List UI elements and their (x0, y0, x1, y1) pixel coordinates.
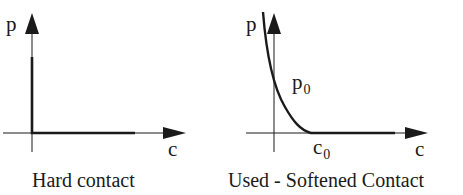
soft-y-axis-label: p (246, 14, 257, 35)
hard-contact-plot (3, 13, 186, 152)
softened-contact-caption: Used - Softened Contact (228, 170, 424, 190)
p0-label: p0 (292, 72, 311, 93)
hard-contact-caption: Hard contact (32, 170, 135, 190)
c0-label-sub: 0 (323, 147, 330, 162)
softened-contact-curve (263, 12, 395, 133)
p0-label-main: p (292, 70, 303, 94)
hard-contact-curve (32, 57, 135, 133)
p0-label-sub: 0 (304, 82, 311, 97)
hard-x-axis-label: c (168, 139, 177, 160)
soft-x-axis-label: c (415, 139, 424, 160)
c0-label: c0 (313, 137, 330, 158)
diagram-canvas (0, 0, 463, 195)
hard-y-arrow-icon (25, 13, 39, 34)
hard-y-axis-label: p (6, 14, 17, 35)
softened-contact-plot (246, 12, 428, 152)
c0-label-main: c (313, 135, 322, 159)
soft-y-arrow-icon (267, 13, 281, 34)
